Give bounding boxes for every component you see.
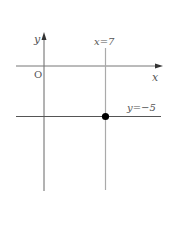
x-axis-arrow-icon	[155, 64, 163, 69]
y-axis-label: y	[33, 33, 41, 46]
coordinate-diagram: y O x x=7 y=−5	[0, 0, 177, 227]
line-x-equals-7-label: x=7	[94, 36, 115, 47]
intersection-point	[102, 113, 109, 120]
line-y-equals-minus-5-label: y=−5	[126, 102, 156, 113]
y-axis-arrow-icon	[42, 32, 47, 40]
x-axis-label: x	[152, 71, 159, 84]
origin-label: O	[34, 69, 42, 80]
